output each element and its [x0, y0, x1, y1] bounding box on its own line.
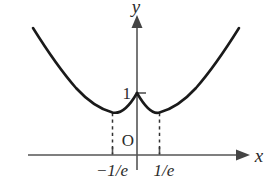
- function-graph-figure: y x 1 O −1/e 1/e: [0, 0, 274, 196]
- y-tick-label-1: 1: [123, 84, 132, 103]
- curve-left-branch: [33, 28, 137, 113]
- y-axis-label: y: [130, 0, 141, 17]
- x-tick-label-neg-inv-e: −1/e: [96, 161, 129, 180]
- x-axis-arrow-icon: [236, 150, 250, 161]
- graph-canvas: y x 1 O −1/e 1/e: [0, 0, 274, 196]
- x-axis-label: x: [254, 145, 264, 166]
- curve-right-branch: [137, 28, 239, 113]
- x-tick-label-pos-inv-e: 1/e: [154, 161, 175, 180]
- origin-label: O: [122, 131, 134, 150]
